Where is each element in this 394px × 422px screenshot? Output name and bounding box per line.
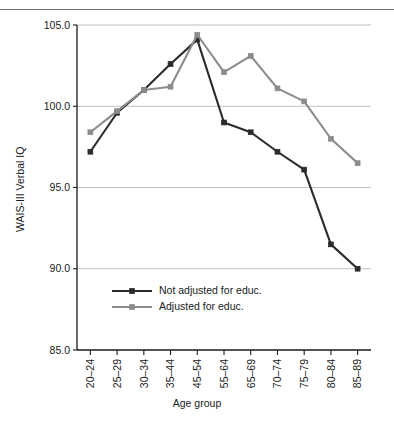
chart-figure: 85.090.095.0100.0105.0 20–2425–2930–3435… <box>0 0 394 422</box>
x-tick-label: 80–84 <box>325 359 337 388</box>
data-point <box>248 130 253 135</box>
y-tick-group: 85.090.095.0100.0105.0 <box>44 19 77 356</box>
x-tick-label: 20–24 <box>84 359 96 388</box>
x-tick-label: 65–69 <box>245 359 257 388</box>
x-tick-label: 45–54 <box>191 359 203 388</box>
data-point <box>302 99 307 104</box>
data-point <box>302 167 307 172</box>
legend-swatch-marker <box>130 289 135 294</box>
data-point <box>355 161 360 166</box>
data-point <box>168 84 173 89</box>
x-tick-label: 85–89 <box>351 359 363 388</box>
x-tick-label: 70–74 <box>271 359 283 388</box>
data-point <box>275 149 280 154</box>
x-axis-title: Age group <box>173 397 222 409</box>
data-point <box>329 242 334 247</box>
data-point <box>115 109 120 114</box>
data-point <box>88 130 93 135</box>
data-point <box>248 53 253 58</box>
data-point <box>168 62 173 67</box>
y-tick-label: 95.0 <box>50 181 71 193</box>
data-point <box>329 136 334 141</box>
data-point <box>195 32 200 37</box>
data-point <box>275 86 280 91</box>
y-tick-label: 105.0 <box>44 19 70 31</box>
x-tick-label: 35–44 <box>164 359 176 388</box>
y-axis-title: WAIS-III Verbal IQ <box>14 147 26 232</box>
legend-label: Not adjusted for educ. <box>159 284 262 296</box>
y-tick-label: 100.0 <box>44 100 70 112</box>
data-point <box>222 70 227 75</box>
data-point <box>88 149 93 154</box>
x-tick-label: 30–34 <box>138 359 150 388</box>
x-tick-label: 55–64 <box>218 359 230 388</box>
legend: Not adjusted for educ.Adjusted for educ. <box>112 284 262 312</box>
series-layer <box>88 32 360 271</box>
data-point <box>355 266 360 271</box>
y-tick-label: 90.0 <box>50 262 71 274</box>
series-line-1 <box>90 35 357 163</box>
legend-swatch-marker <box>130 305 135 310</box>
legend-label: Adjusted for educ. <box>159 300 244 312</box>
line-chart-svg: 85.090.095.0100.0105.0 20–2425–2930–3435… <box>0 0 394 422</box>
x-tick-label: 75–79 <box>298 359 310 388</box>
data-point <box>222 120 227 125</box>
x-tick-group: 20–2425–2930–3435–4445–5455–6465–6970–74… <box>84 350 363 388</box>
y-tick-label: 85.0 <box>50 344 71 356</box>
data-point <box>141 88 146 93</box>
x-tick-label: 25–29 <box>111 359 123 388</box>
